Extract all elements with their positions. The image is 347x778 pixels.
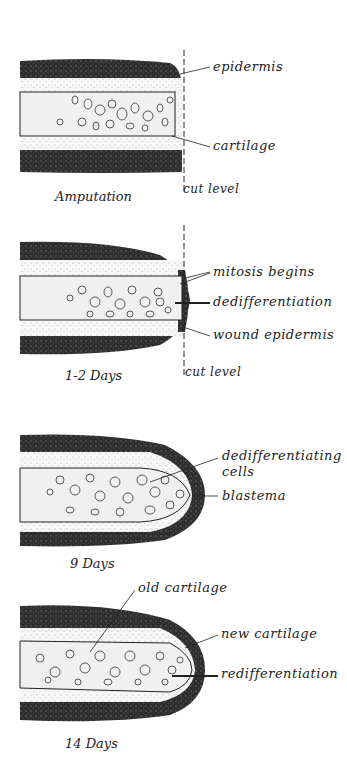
limb-amputation-drawing <box>0 0 347 215</box>
caption-9-days: 9 Days <box>70 556 115 571</box>
panel-14-days: old cartilage new cartilage redifferenti… <box>0 580 347 778</box>
label-new-cartilage: new cartilage <box>221 626 317 641</box>
label-wound-epidermis: wound epidermis <box>213 327 334 342</box>
label-dedifferentiating: dedifferentiating <box>222 448 342 463</box>
limb-9-days-drawing <box>0 420 347 580</box>
panel-9-days: dedifferentiating cells blastema 9 Days <box>0 420 347 580</box>
label-mitosis-begins: mitosis begins <box>213 264 315 279</box>
caption-amputation: Amputation <box>55 189 132 204</box>
label-dedifferentiation: dedifferentiation <box>213 294 332 309</box>
panel-1-2-days: mitosis begins dedifferentiation wound e… <box>0 220 347 420</box>
caption-1-2-days: 1-2 Days <box>65 368 122 383</box>
caption-14-days: 14 Days <box>65 736 118 751</box>
label-blastema: blastema <box>222 488 286 503</box>
label-epidermis: epidermis <box>213 59 283 74</box>
label-cut-level: cut level <box>183 182 239 196</box>
label-cartilage: cartilage <box>213 138 276 153</box>
label-cut-level-2: cut level <box>185 365 241 379</box>
limb-1-2-days-drawing <box>0 220 347 420</box>
panel-amputation: epidermis cartilage cut level Amputation <box>0 0 347 215</box>
label-cells: cells <box>222 464 254 479</box>
label-old-cartilage: old cartilage <box>138 580 228 595</box>
label-redifferentiation: redifferentiation <box>221 666 338 681</box>
